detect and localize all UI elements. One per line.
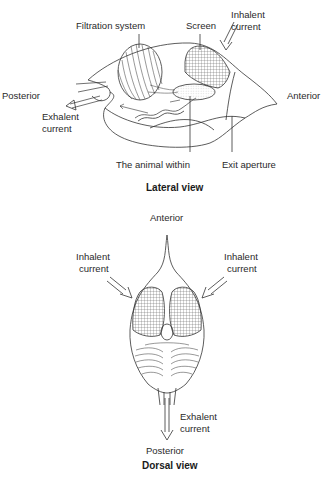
dorsal-exhalent-arrow <box>161 398 173 440</box>
label-inhalent-line1: Inhalent <box>231 9 265 21</box>
dorsal-view-title: Dorsal view <box>142 460 198 471</box>
label-posterior-lateral: Posterior <box>2 90 40 102</box>
lateral-view-drawing <box>66 22 277 152</box>
label-anterior-dorsal: Anterior <box>150 212 183 224</box>
label-anterior-lateral: Anterior <box>287 90 320 102</box>
label-exit-aperture: Exit aperture <box>222 159 276 171</box>
filtration-system-shape <box>118 44 162 100</box>
label-inhalent-right-line2: current <box>227 263 257 275</box>
label-exhalent-line1: Exhalent <box>42 111 79 123</box>
label-inhalent-right-line1: Inhalent <box>224 251 258 263</box>
label-animal-within: The animal within <box>116 159 190 171</box>
dorsal-view-drawing <box>107 235 227 440</box>
label-inhalent-line2: current <box>231 21 261 33</box>
lateral-view-title: Lateral view <box>146 182 203 193</box>
label-exhalent-dorsal-line2: current <box>180 423 210 435</box>
label-inhalent-left-line2: current <box>79 263 109 275</box>
dorsal-inhalent-left-arrow <box>107 277 132 298</box>
label-screen: Screen <box>186 20 216 32</box>
right-screen-mesh <box>170 287 202 336</box>
diagram-drawing <box>0 0 331 477</box>
label-posterior-dorsal: Posterior <box>146 445 184 457</box>
central-body <box>161 324 173 340</box>
dorsal-inhalent-right-arrow <box>202 277 227 298</box>
label-filtration-system: Filtration system <box>76 20 145 32</box>
left-screen-mesh <box>133 287 165 336</box>
screen-mesh <box>185 46 230 88</box>
animal-body <box>173 84 215 100</box>
label-inhalent-left-line1: Inhalent <box>76 251 110 263</box>
label-exhalent-dorsal-line1: Exhalent <box>180 411 217 423</box>
label-exhalent-line2: current <box>42 123 72 135</box>
